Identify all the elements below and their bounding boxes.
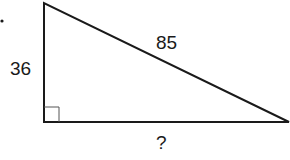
right-triangle <box>44 3 289 122</box>
horizontal-leg-label: ? <box>156 132 167 153</box>
hypotenuse-label: 85 <box>156 32 177 53</box>
vertical-leg-label: 36 <box>10 58 31 79</box>
triangle-diagram: 36 85 ? <box>0 0 290 160</box>
stray-dot <box>0 19 3 22</box>
right-angle-marker <box>44 107 59 122</box>
